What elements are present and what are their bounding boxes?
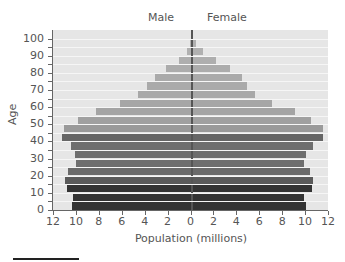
bar-male-55-59 (96, 108, 191, 115)
bar-male-0-4 (72, 202, 191, 209)
y-tick-label: 70 (14, 83, 44, 96)
bar-female-80-84 (192, 65, 231, 72)
band-separator (53, 116, 328, 117)
y-tick (48, 133, 52, 134)
y-axis (52, 30, 53, 211)
band-separator (53, 193, 328, 194)
bar-female-90-94 (192, 48, 203, 55)
bar-male-50-54 (78, 117, 191, 124)
y-tick (48, 150, 52, 151)
bar-male-70-74 (147, 82, 192, 89)
bar-male-25-29 (76, 159, 192, 166)
y-tick (48, 167, 52, 168)
bar-female-60-64 (192, 99, 272, 106)
y-tick (48, 73, 52, 74)
bar-female-50-54 (192, 117, 311, 124)
band-separator (53, 176, 328, 177)
bar-male-5-9 (73, 194, 191, 201)
bar-female-10-14 (192, 185, 312, 192)
y-tick (48, 184, 52, 185)
bar-male-30-34 (75, 151, 192, 158)
y-tick-label: 10 (14, 186, 44, 199)
bar-female-35-39 (192, 142, 313, 149)
bar-male-65-69 (138, 91, 192, 98)
bar-female-40-44 (192, 134, 324, 141)
x-tick-label: 10 (66, 215, 86, 228)
x-tick-label: 6 (249, 215, 269, 228)
y-tick (48, 124, 52, 125)
x-tick-label: 0 (181, 215, 201, 228)
y-tick (48, 193, 52, 194)
x-tick-label: 2 (203, 215, 223, 228)
bar-female-55-59 (192, 108, 295, 115)
footer-rule (13, 258, 79, 260)
x-tick-label: 4 (226, 215, 246, 228)
y-tick (48, 81, 52, 82)
y-tick (48, 176, 52, 177)
y-tick (48, 90, 52, 91)
band-separator (53, 124, 328, 125)
x-tick-label: 2 (158, 215, 178, 228)
band-separator (53, 47, 328, 48)
bar-male-40-44 (62, 134, 191, 141)
bar-male-45-49 (64, 125, 191, 132)
bar-female-25-29 (192, 159, 304, 166)
y-tick-label: 0 (14, 203, 44, 216)
y-tick (48, 210, 52, 211)
x-tick-label: 4 (135, 215, 155, 228)
y-tick-label: 30 (14, 152, 44, 165)
y-tick (48, 159, 52, 160)
bar-female-0-4 (192, 202, 307, 209)
band-separator (53, 167, 328, 168)
female-label: Female (207, 11, 247, 24)
bar-male-35-39 (71, 142, 191, 149)
male-label: Male (148, 11, 174, 24)
bar-female-15-19 (192, 177, 313, 184)
band-separator (53, 81, 328, 82)
band-separator (53, 150, 328, 151)
band-separator (53, 73, 328, 74)
band-separator (53, 201, 328, 202)
bar-female-30-34 (192, 151, 307, 158)
band-separator (53, 133, 328, 134)
band-separator (53, 107, 328, 108)
y-tick (48, 201, 52, 202)
band-separator (53, 159, 328, 160)
band-separator (53, 64, 328, 65)
bar-male-60-64 (120, 99, 191, 106)
y-tick (48, 99, 52, 100)
bar-female-20-24 (192, 168, 310, 175)
y-tick (48, 116, 52, 117)
plot-area (53, 30, 328, 210)
y-tick (48, 64, 52, 65)
bar-male-85-89 (179, 57, 192, 64)
x-tick-label: 12 (318, 215, 338, 228)
bar-female-5-9 (192, 194, 304, 201)
y-tick (48, 141, 52, 142)
bar-female-45-49 (192, 125, 324, 132)
band-separator (53, 141, 328, 142)
x-axis-label: Population (millions) (135, 232, 247, 245)
bar-male-75-79 (155, 74, 192, 81)
band-separator (53, 90, 328, 91)
band-separator (53, 56, 328, 57)
bar-female-75-79 (192, 74, 242, 81)
y-tick-label: 80 (14, 66, 44, 79)
y-tick (48, 107, 52, 108)
y-axis-label: Age (6, 104, 19, 125)
bar-male-15-19 (65, 177, 191, 184)
y-tick-label: 20 (14, 169, 44, 182)
y-tick-label: 40 (14, 134, 44, 147)
band-separator (53, 99, 328, 100)
y-tick (48, 56, 52, 57)
center-axis-line (191, 30, 193, 210)
x-tick-label: 8 (272, 215, 292, 228)
y-tick-label: 90 (14, 49, 44, 62)
band-separator (53, 39, 328, 40)
y-tick-label: 100 (14, 32, 44, 45)
bar-female-70-74 (192, 82, 247, 89)
bar-male-10-14 (67, 185, 192, 192)
bar-female-85-89 (192, 57, 216, 64)
bar-male-20-24 (68, 168, 192, 175)
y-tick (48, 39, 52, 40)
